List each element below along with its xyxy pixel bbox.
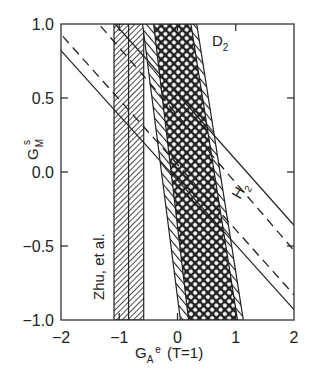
y-axis-label: GMs xyxy=(21,139,45,160)
x-axis-label: GAe(T=1) xyxy=(135,344,203,365)
y-tick-label: 0.0 xyxy=(32,164,54,181)
y-tick-label: −1.0 xyxy=(22,312,54,329)
chart: −2−10121.00.50.0−0.5−1.0 D2 H2 Zhu, et a… xyxy=(0,0,312,387)
x-tick-label: −1 xyxy=(110,329,128,346)
zhu-label: Zhu, et al. xyxy=(90,233,107,300)
y-tick-label: 1.0 xyxy=(32,16,54,33)
d2-label: D2 xyxy=(212,32,229,53)
y-tick-label: 0.5 xyxy=(32,90,54,107)
svg-text:GMs: GMs xyxy=(21,139,45,160)
x-tick-label: 2 xyxy=(290,329,299,346)
x-tick-label: 1 xyxy=(231,329,240,346)
y-tick-label: −0.5 xyxy=(22,238,54,255)
x-tick-label: −2 xyxy=(52,329,70,346)
